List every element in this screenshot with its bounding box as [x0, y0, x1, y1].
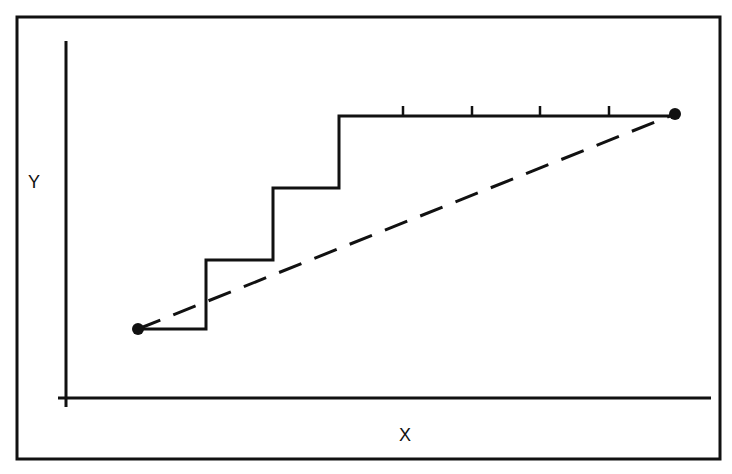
- step-path-diagram: Y X: [0, 0, 732, 474]
- x-axis-label: X: [399, 425, 411, 445]
- end-point-marker: [669, 108, 681, 120]
- y-axis-label: Y: [28, 172, 40, 192]
- start-point-marker: [132, 323, 144, 335]
